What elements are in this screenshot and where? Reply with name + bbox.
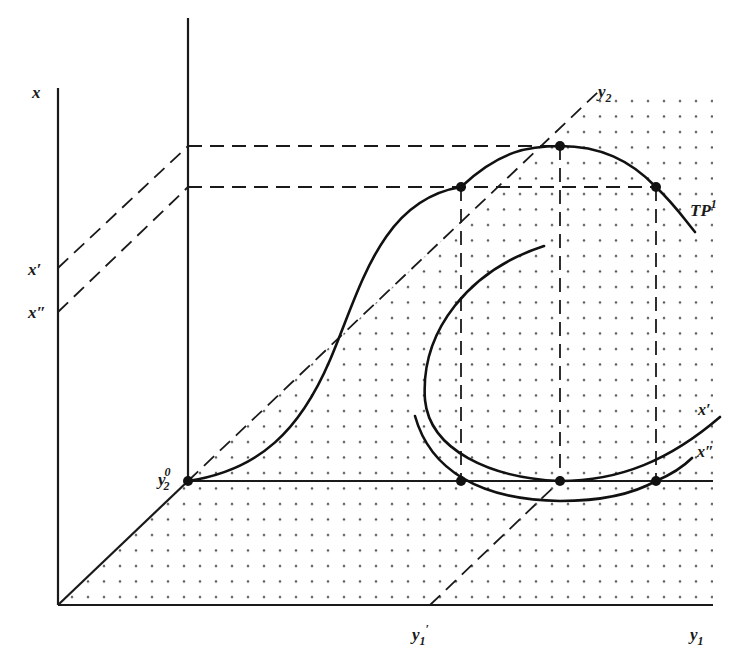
floor-plane-dotted: [58, 481, 713, 605]
label-y1-axis: y1: [688, 625, 704, 648]
y2-origin-point: [183, 476, 193, 486]
tp-left-point: [456, 182, 466, 192]
label-x-prime: x′: [27, 260, 41, 279]
base-mid-point: [555, 476, 565, 486]
base-right-point: [651, 476, 661, 486]
production-possibility-diagram: x x′ x″ y2 y02 TP1 x′ x″ y1′ y1: [0, 0, 748, 660]
base-left-point: [456, 476, 466, 486]
back-plane-dotted: [188, 92, 713, 481]
label-y2-origin: y02: [156, 465, 171, 493]
tp-peak-point: [555, 141, 565, 151]
label-x-double-prime: x″: [27, 303, 46, 322]
label-y1-prime: y1′: [410, 622, 429, 648]
label-isoquant-x-double-prime: x″: [696, 443, 714, 460]
label-isoquant-x-prime: x′: [697, 401, 711, 418]
tp-right-point: [651, 182, 661, 192]
label-x-axis: x: [31, 83, 41, 102]
